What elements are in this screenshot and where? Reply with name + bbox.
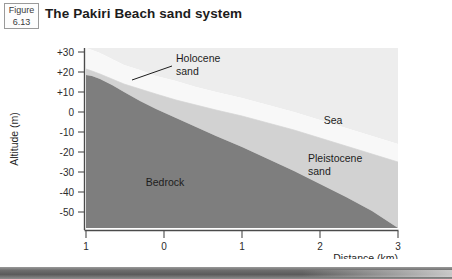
- x-tick-label: 1: [239, 241, 245, 252]
- x-tick-label: 3: [395, 241, 401, 252]
- x-tick-label: 1: [83, 241, 89, 252]
- label-bedrock: Bedrock: [146, 176, 185, 188]
- x-axis-title: Distance (km): [333, 252, 398, 259]
- page-edge-artifact: [0, 267, 452, 279]
- y-tick-label: -30: [60, 167, 75, 178]
- page-edge-highlight: [302, 270, 452, 277]
- figure-number: 6.13: [5, 16, 38, 28]
- y-tick-label: -10: [60, 127, 75, 138]
- x-tick-label: 0: [161, 241, 167, 252]
- label-sea: Sea: [324, 114, 343, 126]
- label-holocene-sand-line1: Holocene: [176, 52, 221, 64]
- y-axis-tick-labels: +30 +20 +10 0 -10 -20 -30 -40 -50: [57, 47, 74, 218]
- y-tick-label: +20: [57, 67, 74, 78]
- strata-layers: [86, 48, 398, 230]
- y-tick-label: -20: [60, 147, 75, 158]
- label-pleistocene-sand-line1: Pleistocene: [308, 152, 362, 164]
- x-axis-tick-labels: 1 0 1 2 3: [83, 241, 401, 252]
- page-title: The Pakiri Beach sand system: [45, 6, 242, 21]
- x-tick-label: 2: [317, 241, 323, 252]
- x-axis-ticks: [86, 231, 398, 238]
- chart-canvas: +30 +20 +10 0 -10 -20 -30 -40 -50 Altitu…: [0, 34, 452, 259]
- figure-header: Figure 6.13 The Pakiri Beach sand system: [0, 0, 452, 34]
- label-pleistocene-sand-line2: sand: [308, 165, 331, 177]
- figure-number-box: Figure 6.13: [4, 3, 39, 29]
- y-tick-label: -40: [60, 187, 75, 198]
- y-axis-title: Altitude (m): [8, 112, 20, 166]
- figure-label-word: Figure: [5, 4, 38, 16]
- y-tick-label: 0: [68, 107, 74, 118]
- cross-section-chart: +30 +20 +10 0 -10 -20 -30 -40 -50 Altitu…: [0, 34, 452, 259]
- y-tick-label: +10: [57, 87, 74, 98]
- y-tick-label: -50: [60, 207, 75, 218]
- label-holocene-sand-line2: sand: [176, 65, 199, 77]
- y-tick-label: +30: [57, 47, 74, 58]
